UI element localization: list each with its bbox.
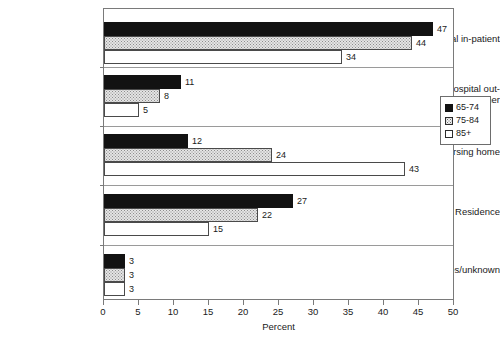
bar-85-plus [104, 222, 209, 236]
x-axis-tick [453, 300, 454, 305]
x-axis-tick [278, 300, 279, 305]
bar-value-label: 5 [143, 106, 148, 115]
category-divider [104, 67, 453, 68]
bar-value-label: 3 [129, 271, 134, 280]
category-divider [104, 245, 453, 246]
bar-65-74 [104, 194, 293, 208]
x-axis-tick-label: 40 [378, 307, 389, 317]
legend: 65-74 75-84 85+ [440, 96, 491, 145]
y-axis-tick [100, 185, 104, 186]
bar-chart: Hospital in-patient Hospital out- patien… [0, 0, 500, 341]
plot-area: 47 44 34 11 8 5 [103, 8, 454, 300]
bar-85-plus [104, 50, 342, 64]
legend-item-75-84[interactable]: 75-84 [445, 114, 487, 127]
legend-swatch-icon [445, 104, 453, 112]
x-axis-tick [313, 300, 314, 305]
x-axis-tick-label: 25 [273, 307, 284, 317]
legend-swatch-icon [445, 130, 453, 138]
bar-75-84 [104, 36, 412, 50]
x-axis-tick-label: 35 [343, 307, 354, 317]
bar-75-84 [104, 148, 272, 162]
bar-65-74 [104, 254, 125, 268]
legend-item-label: 75-84 [456, 116, 479, 125]
bar-value-label: 3 [129, 257, 134, 266]
x-axis-tick-label: 50 [448, 307, 459, 317]
bar-75-84 [104, 268, 125, 282]
x-axis-tick [348, 300, 349, 305]
bar-value-label: 3 [129, 285, 134, 294]
x-axis-tick [208, 300, 209, 305]
x-axis-tick [383, 300, 384, 305]
bar-85-plus [104, 103, 139, 117]
legend-item-85-plus[interactable]: 85+ [445, 127, 487, 140]
x-axis-tick-label: 30 [308, 307, 319, 317]
x-axis: 0 5 10 15 20 25 30 35 40 45 50 [103, 300, 454, 322]
x-axis-tick [418, 300, 419, 305]
y-axis-tick [100, 126, 104, 127]
bar-value-label: 43 [409, 165, 419, 174]
x-axis-tick [138, 300, 139, 305]
bar-85-plus [104, 282, 125, 296]
x-axis-tick [243, 300, 244, 305]
x-axis-tick-label: 45 [413, 307, 424, 317]
bar-75-84 [104, 208, 258, 222]
bar-65-74 [104, 22, 433, 36]
bar-85-plus [104, 162, 405, 176]
bar-value-label: 24 [276, 151, 286, 160]
legend-item-label: 65-74 [456, 103, 479, 112]
bar-value-label: 27 [297, 197, 307, 206]
bar-value-label: 22 [262, 211, 272, 220]
category-divider [104, 185, 453, 186]
x-axis-tick-label: 0 [100, 307, 105, 317]
x-axis-tick-label: 10 [168, 307, 179, 317]
x-axis-title: Percent [103, 322, 454, 332]
bar-value-label: 11 [185, 78, 194, 87]
legend-item-label: 85+ [456, 129, 471, 138]
x-axis-tick [173, 300, 174, 305]
bar-value-label: 47 [437, 25, 447, 34]
y-axis-tick [100, 245, 104, 246]
legend-swatch-icon [445, 117, 453, 125]
x-axis-tick-label: 5 [135, 307, 140, 317]
bar-value-label: 34 [346, 53, 356, 62]
x-axis-tick [103, 300, 104, 305]
bar-75-84 [104, 89, 160, 103]
bar-65-74 [104, 134, 188, 148]
x-axis-tick-label: 20 [238, 307, 249, 317]
bar-value-label: 44 [416, 39, 426, 48]
bar-value-label: 8 [164, 92, 169, 101]
legend-item-65-74[interactable]: 65-74 [445, 101, 487, 114]
y-axis-tick [100, 67, 104, 68]
bar-value-label: 15 [213, 225, 223, 234]
category-divider [104, 126, 453, 127]
bar-value-label: 12 [192, 137, 202, 146]
x-axis-tick-label: 15 [203, 307, 214, 317]
bar-65-74 [104, 75, 181, 89]
